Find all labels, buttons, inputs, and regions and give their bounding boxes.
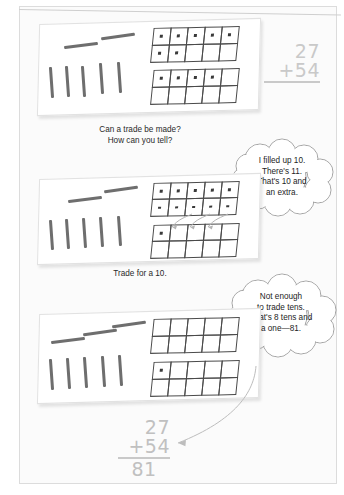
ten-stick-vertical	[117, 216, 122, 246]
ten-stick-horizontal	[64, 42, 98, 49]
tens-sticks-panel-1	[38, 21, 148, 111]
ten-stick-horizontal	[104, 186, 138, 194]
ten-stick-vertical	[66, 358, 71, 389]
ten-frame-cell	[220, 26, 240, 44]
ten-frame-cell	[220, 223, 240, 241]
ten-stick-horizontal	[112, 321, 146, 329]
ten-frame-cell	[220, 68, 240, 86]
ten-stick-vertical	[49, 67, 54, 98]
worksheet-page: 27 +54 Can a trade be made? How can you …	[0, 0, 344, 495]
ten-frame-panel-2-bottom	[150, 223, 239, 258]
ten-frame-cell	[218, 239, 238, 257]
prompt-can-a-trade: Can a trade be made? How can you tell?	[62, 124, 218, 146]
ten-frame-cell	[220, 181, 240, 199]
ten-stick-horizontal	[101, 33, 135, 41]
ten-stick-horizontal	[51, 337, 85, 344]
ten-stick-vertical	[83, 357, 88, 388]
ten-stick-vertical	[65, 66, 70, 97]
ten-frame-cell	[218, 334, 238, 352]
ten-frame-cell	[218, 85, 238, 103]
prompt-trade-for-a-10: Trade for a 10.	[62, 268, 218, 279]
ten-frame-panel-3-top	[150, 317, 239, 353]
ten-frame-cell	[220, 360, 240, 378]
ten-stick-vertical	[81, 66, 86, 97]
ten-stick-vertical	[101, 356, 106, 387]
ten-stick-horizontal	[68, 196, 102, 203]
ten-frame-panel-1-top	[150, 26, 239, 62]
tens-sticks-panel-3	[38, 311, 148, 399]
ten-stick-vertical	[49, 220, 54, 250]
ten-stick-vertical	[82, 218, 87, 248]
ten-frame-cell	[220, 317, 240, 335]
final-addend-2: +54	[118, 437, 170, 456]
ten-frame-panel-2-top	[150, 181, 239, 216]
ten-stick-vertical	[99, 63, 104, 94]
sum-rule	[264, 81, 320, 83]
ten-stick-vertical	[99, 217, 104, 247]
ten-stick-vertical	[49, 359, 54, 390]
ten-stick-vertical	[118, 355, 123, 386]
ten-stick-vertical	[117, 62, 122, 93]
ten-frame-cell	[218, 377, 238, 395]
tens-sticks-panel-2	[38, 176, 148, 260]
final-answer-sum: 27 +54 81	[118, 418, 170, 479]
ten-frame-panel-3-bottom	[150, 360, 239, 396]
ten-stick-vertical	[65, 219, 70, 249]
ten-frame-cell	[218, 197, 238, 215]
final-total: 81	[118, 460, 170, 479]
ten-stick-horizontal	[83, 329, 117, 337]
ten-frame-panel-1-bottom	[150, 68, 239, 104]
ten-frame-cell	[218, 43, 238, 61]
sum-addend-2: +54	[264, 61, 320, 80]
problem-sum-top: 27 +54	[264, 42, 320, 83]
